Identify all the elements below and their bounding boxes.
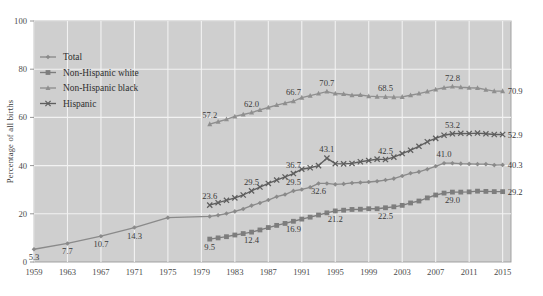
marker-square (483, 189, 488, 194)
data-point-label: 12.4 (244, 235, 260, 245)
x-axis: 1959196319671971197519791983198719911995… (25, 267, 511, 277)
data-point-label: 14.3 (127, 231, 142, 241)
data-point-label: 10.7 (93, 239, 109, 249)
x-axis-tick-label: 1979 (193, 267, 210, 277)
marker-square (366, 206, 371, 211)
x-axis-tick-label: 1959 (25, 267, 42, 277)
marker-square (224, 234, 229, 239)
x-axis-tick-label: 2011 (461, 267, 478, 277)
marker-square (274, 223, 279, 228)
x-axis-tick-label: 1999 (360, 267, 377, 277)
marker-square (417, 199, 422, 204)
marker-square (291, 219, 296, 224)
marker-square (266, 225, 271, 230)
x-axis-tick-label: 1983 (226, 267, 243, 277)
chart-figure: 020406080100Percentage of all births1959… (0, 0, 543, 296)
x-axis-tick-label: 1995 (327, 267, 344, 277)
x-axis-tick-label: 2007 (427, 267, 445, 277)
data-point-label: 29.2 (508, 187, 523, 197)
marker-square (258, 228, 263, 233)
y-axis-title: Percentage of all births (5, 100, 15, 183)
marker-square (467, 189, 472, 194)
legend-label: Non-Hispanic white (63, 68, 139, 78)
marker-square (358, 207, 363, 212)
y-axis-tick-label: 40 (18, 161, 27, 171)
x-axis-tick-label: 2003 (394, 267, 411, 277)
marker-square (458, 190, 463, 195)
legend-label: Hispanic (63, 99, 96, 109)
data-point-label: 40.3 (508, 160, 523, 170)
marker-square (207, 237, 212, 242)
marker-square (492, 189, 497, 194)
data-point-label: 57.2 (202, 110, 217, 120)
data-point-label: 70.7 (319, 78, 335, 88)
marker-square (341, 208, 346, 213)
marker-square (400, 203, 405, 208)
data-point-label: 16.9 (286, 224, 301, 234)
legend-label: Non-Hispanic black (63, 83, 139, 93)
line-chart: 020406080100Percentage of all births1959… (0, 0, 543, 296)
x-axis-tick-label: 2015 (494, 267, 511, 277)
data-point-label: 21.2 (328, 214, 343, 224)
marker-square (408, 201, 413, 206)
data-point-label: 36.7 (286, 160, 302, 170)
data-point-label: 23.6 (202, 191, 218, 201)
marker-square (316, 213, 321, 218)
data-point-label: 68.5 (378, 83, 393, 93)
data-point-label: 43.1 (319, 144, 334, 154)
marker-square (450, 190, 455, 195)
marker-square (308, 215, 313, 220)
marker-square (425, 195, 430, 200)
y-axis-tick-label: 60 (18, 112, 27, 122)
data-point-label: 29.0 (445, 195, 460, 205)
x-axis-tick-label: 1963 (59, 267, 76, 277)
data-point-label: 41.0 (437, 149, 452, 159)
marker-square (475, 189, 480, 194)
data-point-label: 42.5 (378, 146, 393, 156)
data-point-label: 52.9 (508, 130, 523, 140)
data-point-label: 66.7 (286, 87, 302, 97)
data-point-label: 62.0 (244, 99, 259, 109)
x-axis-tick-label: 1967 (92, 267, 110, 277)
y-axis-tick-label: 100 (14, 16, 27, 26)
data-point-label: 53.2 (445, 120, 460, 130)
data-point-label: 70.9 (508, 86, 523, 96)
y-axis-tick-label: 0 (23, 257, 27, 267)
marker-square (232, 233, 237, 238)
data-point-label: 22.5 (378, 211, 393, 221)
data-point-label: 7.7 (62, 246, 73, 256)
legend-label: Total (63, 52, 83, 62)
data-point-label: 29.5 (286, 177, 301, 187)
marker-square (500, 189, 505, 194)
marker-square (433, 193, 438, 198)
x-axis-tick-label: 1991 (293, 267, 310, 277)
x-axis-tick-label: 1971 (126, 267, 143, 277)
marker-square (333, 209, 338, 214)
data-point-label: 29.5 (244, 177, 259, 187)
marker-square (299, 217, 304, 222)
marker-square (391, 204, 396, 209)
marker-square (216, 236, 221, 241)
x-axis-tick-label: 1975 (159, 267, 176, 277)
marker-square (249, 230, 254, 235)
data-point-label: 72.8 (445, 73, 460, 83)
y-axis-tick-label: 80 (18, 64, 27, 74)
marker-square (46, 70, 51, 75)
marker-square (350, 207, 355, 212)
data-point-label: 32.6 (311, 186, 327, 196)
y-axis-tick-label: 20 (18, 209, 27, 219)
x-axis-tick-label: 1987 (260, 267, 278, 277)
data-point-label: 5.3 (29, 252, 40, 262)
marker-square (383, 205, 388, 210)
data-point-label: 9.5 (204, 242, 215, 252)
